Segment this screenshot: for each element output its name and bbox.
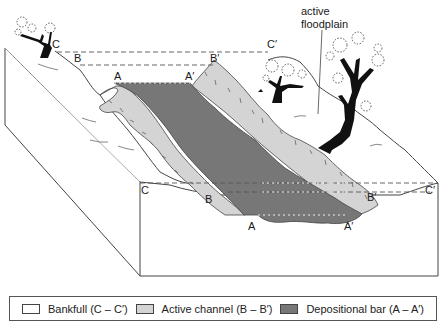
label-top-B: B [74,52,81,64]
floodplain-leader-line [318,30,322,114]
legend-item-active-channel: Active channel (B – B′) [136,303,273,315]
tree-icon [258,60,306,103]
label-top-C: C [52,38,60,50]
label-top-A-prime: A′ [185,70,194,82]
legend-label: Depositional bar (A – A′) [306,303,424,315]
annotation-floodplain: floodplain [301,18,348,30]
legend-label: Active channel (B – B′) [162,303,273,315]
annotation-active: active [301,5,330,17]
legend: Bankfull (C – C′) Active channel (B – B′… [9,296,437,321]
label-front-B: B [205,193,212,205]
bankfull-swatch [22,304,40,314]
label-front-C: C [141,184,149,196]
legend-item-depositional-bar: Depositional bar (A – A′) [280,303,424,315]
floodplain-surface [5,48,140,182]
label-front-B-prime: B′ [367,191,376,203]
top-level-lines [57,52,268,65]
depositional-bar-swatch [280,304,298,314]
label-front-C-prime: C′ [425,184,435,196]
label-top-C-prime: C′ [267,38,277,50]
legend-item-bankfull: Bankfull (C – C′) [22,303,128,315]
label-top-B-prime: B′ [210,52,219,64]
river-channel-block-diagram: active floodplain C C′ B B′ A A′ C C′ B … [0,0,446,296]
legend-label: Bankfull (C – C′) [48,303,128,315]
label-front-A: A [248,220,256,232]
label-top-A: A [114,70,122,82]
active-channel-swatch [136,304,154,314]
label-front-A-prime: A′ [344,220,353,232]
